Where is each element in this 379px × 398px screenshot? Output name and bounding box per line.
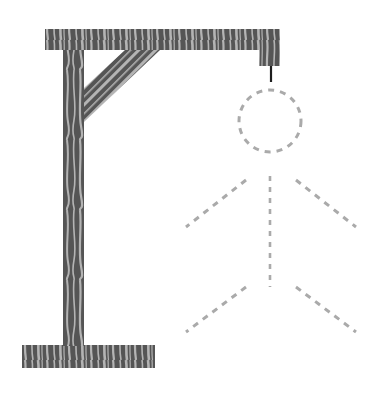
figure-right-leg-placeholder: [296, 287, 356, 332]
gallows-hook-block: [259, 50, 280, 66]
gallows-beam: [45, 29, 280, 50]
gallows-post: [63, 50, 84, 346]
figure-left-leg-placeholder: [186, 287, 246, 332]
figure-left-arm-placeholder: [186, 180, 246, 227]
hangman-scene: [0, 0, 379, 398]
figure-right-arm-placeholder: [296, 180, 356, 227]
figure-head-placeholder: [239, 90, 301, 152]
gallows-base: [22, 345, 155, 368]
gallows-brace: [84, 50, 160, 122]
hangman-figure: [186, 90, 356, 332]
gallows: [22, 29, 280, 368]
